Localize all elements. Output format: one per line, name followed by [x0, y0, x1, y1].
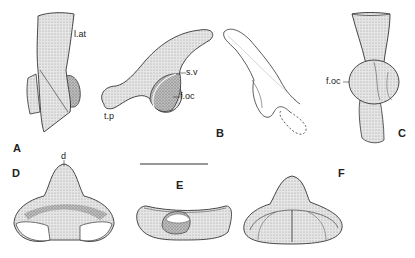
- panel-label-c: C: [398, 128, 406, 139]
- bone-drawing-e: [137, 206, 232, 240]
- annotation-s-v: s.v: [186, 68, 198, 77]
- annotation-t-p: t.p: [104, 112, 114, 121]
- bone-drawing-d: [14, 160, 114, 241]
- panel-label-a: A: [13, 143, 21, 154]
- panel-label-d: D: [12, 168, 20, 179]
- annotation-f-oc-c: f.oc: [326, 77, 341, 86]
- figure-drawings: [0, 0, 415, 258]
- bone-drawing-a: [27, 13, 80, 132]
- panel-label-e: E: [176, 180, 183, 191]
- annotation-l-at: l.at: [74, 30, 86, 39]
- bone-drawing-c: [343, 13, 399, 143]
- anatomical-figure: A B C D E F l.at t.p s.v f.oc f.oc d: [0, 0, 415, 258]
- panel-label-b: B: [216, 128, 224, 139]
- annotation-f-oc-b: f.oc: [180, 92, 195, 101]
- bone-drawing-b-outline: [224, 29, 307, 134]
- bone-drawing-f: [244, 176, 342, 244]
- panel-label-f: F: [338, 168, 345, 179]
- annotation-d: d: [61, 152, 66, 161]
